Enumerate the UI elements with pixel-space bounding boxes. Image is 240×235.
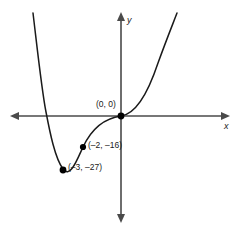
point-label-neg2-neg16: (–2, –16) — [88, 141, 122, 150]
x-axis-right-arrowhead — [221, 112, 230, 120]
coordinate-plane-svg — [0, 0, 240, 235]
x-axis-left-arrowhead — [10, 112, 19, 120]
x-axis-label: x — [224, 122, 229, 131]
point-marker-origin — [118, 113, 125, 120]
point-label-neg3-neg27: (–3, –27) — [68, 163, 102, 172]
y-axis-label: y — [127, 16, 132, 25]
y-axis-top-arrowhead — [117, 12, 125, 21]
point-marker-neg3 — [60, 167, 67, 174]
graph-figure: (0, 0) (–2, –16) (–3, –27) x y — [0, 0, 240, 235]
point-marker-neg2 — [80, 144, 86, 150]
point-label-origin: (0, 0) — [96, 100, 116, 109]
y-axis-bottom-arrowhead — [117, 214, 125, 223]
